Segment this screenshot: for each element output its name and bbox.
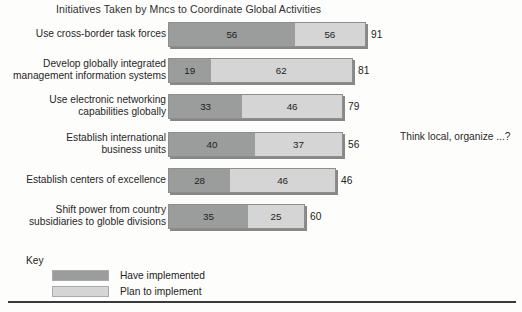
bar-segment-value: 46: [287, 101, 298, 112]
bar-segment-value: 33: [200, 101, 211, 112]
bar-segment-value: 19: [184, 65, 195, 76]
category-label: Shift power from country subsidiaries to…: [29, 204, 166, 229]
bar-segment-value: 56: [324, 29, 335, 40]
bar-segment-value: 28: [194, 175, 205, 186]
bar-segment-plan-to-implement[interactable]: 25: [248, 205, 304, 228]
bar-total-label: 81: [358, 58, 369, 83]
category-label: Use electronic networking capabilities g…: [49, 94, 166, 119]
bar-segment-value: 37: [293, 139, 304, 150]
bar-segment-value: 40: [207, 139, 218, 150]
legend-label-have-implemented: Have implemented: [120, 270, 205, 281]
bar-segment-have-implemented[interactable]: 33: [169, 95, 242, 118]
legend-title: Key: [26, 255, 205, 266]
legend-item-plan-to-implement: Plan to implement: [26, 285, 205, 298]
bar-segment-have-implemented[interactable]: 28: [169, 169, 230, 192]
bar-segment-plan-to-implement[interactable]: 46: [230, 169, 335, 192]
stacked-bar[interactable]: 2846: [168, 168, 336, 193]
chart-legend: Key Have implemented Plan to implement: [26, 255, 205, 301]
category-label: Establish international business units: [66, 132, 166, 157]
bar-segment-have-implemented[interactable]: 40: [169, 133, 255, 156]
bar-total-label: 79: [348, 94, 359, 119]
bar-total-label: 56: [348, 132, 359, 157]
bar-segment-have-implemented[interactable]: 35: [169, 205, 248, 228]
bar-total-label: 91: [371, 22, 382, 47]
bottom-divider: [8, 301, 516, 303]
stacked-bar[interactable]: 3346: [168, 94, 343, 119]
bar-segment-plan-to-implement[interactable]: 37: [255, 133, 342, 156]
category-label: Use cross-border task forces: [36, 28, 166, 40]
chart-title: Initiatives Taken by Mncs to Coordinate …: [56, 3, 321, 15]
bar-segment-plan-to-implement[interactable]: 62: [211, 59, 352, 82]
bar-segment-value: 56: [226, 29, 237, 40]
bar-segment-plan-to-implement[interactable]: 56: [295, 23, 365, 46]
annotation-text: Think local, organize ...?: [400, 131, 510, 142]
bar-total-label: 60: [310, 204, 321, 229]
bar-total-label: 46: [341, 168, 352, 193]
legend-label-plan-to-implement: Plan to implement: [120, 286, 202, 297]
legend-item-have-implemented: Have implemented: [26, 269, 205, 282]
legend-swatch-have-implemented: [52, 270, 109, 281]
bar-segment-value: 46: [277, 175, 288, 186]
bar-segment-value: 62: [276, 65, 287, 76]
stacked-bar[interactable]: 4037: [168, 132, 343, 157]
legend-swatch-plan-to-implement: [52, 286, 109, 297]
category-label: Develop globally integrated management i…: [13, 58, 166, 83]
stacked-bar[interactable]: 1962: [168, 58, 353, 83]
bar-segment-value: 35: [203, 211, 214, 222]
stacked-bar[interactable]: 5656: [168, 22, 366, 47]
category-label: Establish centers of excellence: [26, 174, 166, 186]
chart-page: Initiatives Taken by Mncs to Coordinate …: [0, 0, 522, 312]
bar-segment-plan-to-implement[interactable]: 46: [242, 95, 342, 118]
bar-segment-have-implemented[interactable]: 56: [169, 23, 295, 46]
stacked-bar[interactable]: 3525: [168, 204, 305, 229]
bar-segment-have-implemented[interactable]: 19: [169, 59, 211, 82]
bar-segment-value: 25: [270, 211, 281, 222]
